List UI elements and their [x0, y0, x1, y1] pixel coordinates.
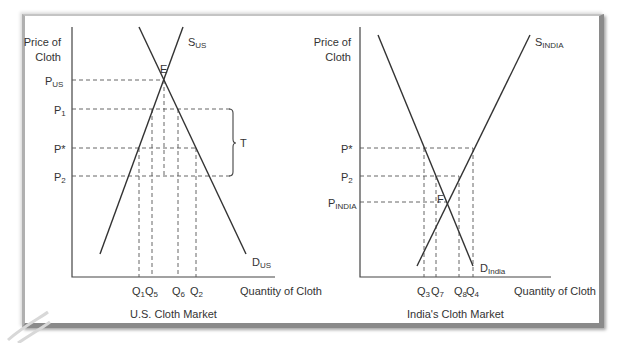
decorative-swirl: [18, 322, 50, 343]
us-x-axis-label: Quantity of Cloth: [240, 285, 322, 297]
india-supply-label: SINDIA: [535, 36, 564, 50]
india-demand-label: DIndia: [480, 262, 506, 276]
us-price-label-p2: P2: [54, 171, 66, 185]
india-y-axis-label-2: Cloth: [325, 51, 351, 63]
us-y-axis-label-2: Cloth: [35, 51, 61, 63]
us-supply-curve: [100, 27, 183, 254]
tariff-brace: [229, 109, 236, 176]
india-price-label-pindia: PINDIA: [328, 197, 357, 211]
us-axes: [72, 27, 275, 277]
india-x-axis-label: Quantity of Cloth: [514, 285, 596, 297]
us-quantity-label-q5: Q5: [145, 285, 159, 299]
india-quantity-label-q7: Q7: [431, 285, 445, 299]
india-quantity-label-q3: Q3: [417, 285, 431, 299]
us-equilibrium-label: E: [160, 63, 167, 75]
india-price-label-p2: P2: [341, 171, 353, 185]
us-demand-curve: [139, 27, 246, 254]
us-price-label-pus: PUS: [45, 75, 63, 89]
us-y-axis-label-1: Price of: [24, 36, 62, 48]
us-price-label-p1: P1: [54, 104, 66, 118]
trade-diagram: Price of Cloth PUS P1 P* P2 Q1 Q5 Q6 Q2 …: [0, 0, 617, 343]
us-quantity-label-q6: Q6: [172, 285, 186, 299]
us-supply-label: SUS: [188, 36, 206, 50]
us-quantity-label-q2: Q2: [190, 285, 204, 299]
us-price-label-pstar: P*: [54, 143, 66, 155]
us-chart-title: U.S. Cloth Market: [130, 308, 217, 320]
india-chart-title: India's Cloth Market: [407, 308, 504, 320]
india-y-axis-label-1: Price of: [314, 36, 352, 48]
india-equilibrium-label: F: [437, 193, 444, 205]
india-cloth-market-chart: Price of Cloth P* P2 PINDIA Q3 Q7 Q8 Q4 …: [314, 27, 596, 320]
us-quantity-label-q1: Q1: [132, 285, 146, 299]
india-quantity-label-q4: Q4: [466, 285, 480, 299]
tariff-label: T: [240, 137, 247, 149]
india-price-label-pstar: P*: [341, 143, 353, 155]
india-demand-curve: [378, 35, 473, 266]
us-demand-label: DUS: [252, 256, 271, 270]
india-axes: [360, 27, 551, 277]
india-supply-curve: [417, 35, 530, 266]
us-cloth-market-chart: Price of Cloth PUS P1 P* P2 Q1 Q5 Q6 Q2 …: [24, 27, 322, 320]
